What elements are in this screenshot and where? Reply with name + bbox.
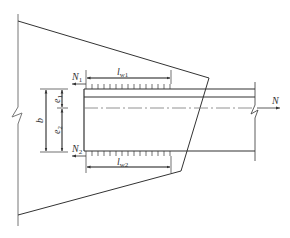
label-n2: N2 (71, 143, 83, 156)
label-n1: N1 (71, 71, 83, 84)
force-arrows (72, 84, 280, 156)
label-n: N (271, 95, 280, 106)
weld-bottom (86, 151, 170, 156)
weld-top (86, 84, 170, 89)
dimension-lw1 (86, 70, 171, 84)
label-lw1: lw1 (117, 66, 129, 79)
weld-joint-diagram: N1 N2 N lw1 lw2 b e1 e2 (0, 0, 290, 238)
dimension-lw2 (86, 156, 171, 173)
member (84, 82, 258, 161)
label-b: b (34, 118, 45, 123)
